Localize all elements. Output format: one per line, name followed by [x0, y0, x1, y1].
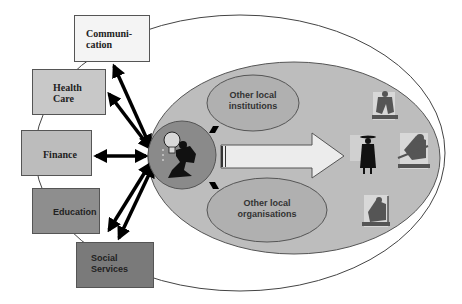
hub: [148, 121, 216, 189]
box-social-services-label: Social Services: [91, 253, 128, 275]
box-communication: Communi- cation: [74, 15, 150, 62]
box-finance-label: Finance: [43, 149, 77, 160]
harvest-figure-icon: [362, 195, 390, 227]
box-education: Education: [32, 188, 100, 234]
box-finance: Finance: [21, 130, 92, 176]
worker-figure-icon: [372, 91, 398, 120]
digging-figure-icon: [398, 133, 430, 169]
box-education-label: Education: [53, 207, 97, 218]
box-communication-label: Communi- cation: [86, 28, 132, 50]
other-local-organisations-label: Other local organisations: [222, 198, 312, 220]
box-health-care: Health Care: [32, 69, 106, 115]
community-network-diagram: Communi- cation Health Care Finance Educ…: [0, 0, 462, 304]
other-local-institutions-label: Other local institutions: [213, 90, 293, 112]
box-social-services: Social Services: [76, 242, 154, 288]
box-health-care-label: Health Care: [53, 82, 82, 104]
